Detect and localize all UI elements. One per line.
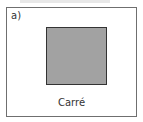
figure-panel: a) Carré	[6, 7, 137, 117]
shape-caption: Carré	[7, 97, 136, 108]
cropped-figure-edge	[20, 0, 110, 3]
panel-label: a)	[11, 10, 21, 21]
square-shape	[46, 27, 107, 85]
